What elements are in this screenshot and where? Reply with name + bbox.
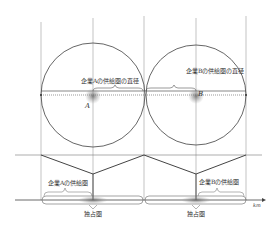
firm-b-monopoly-label: 独占圏	[187, 210, 205, 218]
firm-a-label: A	[84, 102, 90, 110]
brace-icon	[198, 188, 244, 196]
pointer-icon	[89, 205, 97, 209]
firm-b-area-label: 企業Bの供給圏	[199, 178, 239, 186]
diameter-end-dot	[245, 94, 247, 96]
firm-b-label: B	[197, 90, 203, 98]
brace-icon	[93, 85, 143, 91]
brace-icon	[44, 188, 92, 196]
brace-icon	[146, 85, 196, 91]
firm-a-monopoly-shade	[78, 196, 108, 204]
axis-arrow-icon	[262, 198, 266, 202]
firm-a-diameter-label: 企業Aの供給圏の直径	[81, 77, 139, 85]
cost-profile-line	[41, 155, 246, 174]
supply-area-diagram: 企業Aの供給圏の直径 企業Bの供給圏の直径 A B km 企業Aの供給圏 企業B…	[0, 0, 279, 238]
firm-a-monopoly-label: 独占圏	[84, 210, 102, 218]
firm-b-monopoly-shade	[181, 196, 211, 204]
firm-b-diameter-label: 企業Bの供給圏の直径	[186, 67, 244, 75]
pointer-icon	[192, 205, 200, 209]
diameter-end-dot	[40, 94, 42, 96]
axis-unit-label: km	[253, 202, 261, 208]
firm-a-area-label: 企業Aの供給圏	[48, 179, 88, 187]
